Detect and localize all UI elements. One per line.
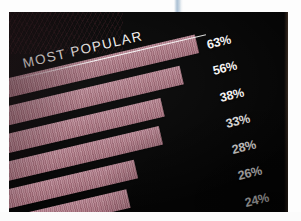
page-margin-right [288,0,301,221]
page-root: MOST POPULAR 63% 56% 38% 33% 28% 26% 24% [0,0,301,221]
page-margin-left [0,0,9,221]
bar-chart-photo: MOST POPULAR 63% 56% 38% 33% 28% 26% 24% [9,12,288,212]
photo-edge-right [284,12,288,212]
page-margin-top [0,0,301,12]
page-margin-bottom [0,212,301,221]
